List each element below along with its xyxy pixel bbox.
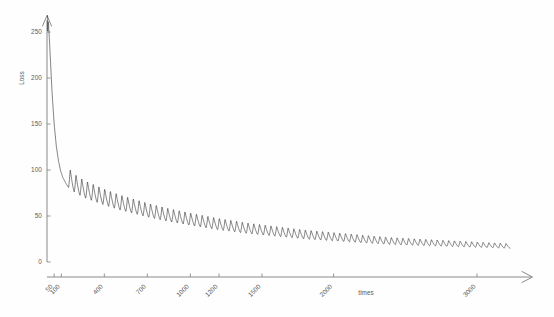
y-tick-label: 150 — [31, 120, 42, 127]
x-tick-label: 1000 — [175, 283, 191, 299]
y-axis-ticks: 050100150200250 — [31, 28, 50, 265]
x-tick-label: 400 — [91, 283, 104, 296]
y-tick-label: 200 — [31, 74, 42, 81]
x-tick-label: 700 — [134, 283, 147, 296]
loss-chart: 050100150200250 Loss 5010040070010001200… — [0, 0, 554, 317]
y-tick-label: 100 — [31, 166, 42, 173]
y-tick-label: 0 — [38, 258, 42, 265]
x-tick-label: 1500 — [246, 283, 262, 299]
chart-canvas: 050100150200250 Loss 5010040070010001200… — [0, 0, 554, 317]
x-tick-label: 1200 — [203, 283, 219, 299]
y-tick-label: 250 — [31, 28, 42, 35]
loss-curve-line — [47, 15, 510, 248]
x-axis-title: times — [358, 289, 373, 296]
y-tick-label: 50 — [35, 212, 43, 219]
y-axis-title: Loss — [18, 71, 25, 85]
x-tick-label: 3000 — [461, 283, 477, 299]
x-tick-label: 2000 — [318, 283, 334, 299]
